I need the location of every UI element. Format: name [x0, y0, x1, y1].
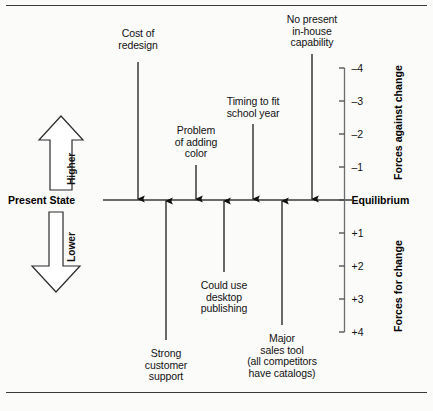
axis-tick-label-3: –1 [352, 162, 364, 173]
axis-tick-label-7: +3 [352, 294, 364, 305]
axis-tick-label-5: +1 [352, 228, 364, 239]
forces_for-label-1: Could use desktop publishing [166, 280, 282, 315]
forces_against-label-0: Cost of redesign [80, 28, 196, 51]
axis-tick-label-1: –3 [352, 96, 364, 107]
axis-tick-label-0: –4 [352, 63, 364, 74]
axis-tick-label-2: –2 [352, 129, 364, 140]
forces-for-arrows [166, 201, 282, 340]
axis-tick-label-6: +2 [352, 261, 364, 272]
present-state-label: Present State [8, 195, 75, 206]
forces-against-change-caption: Forces against change [392, 65, 404, 180]
equilibrium-label: Equilibrium [352, 195, 410, 206]
lower-label: Lower [66, 232, 77, 262]
forces-for-change-caption: Forces for change [392, 240, 404, 332]
higher-label: Higher [66, 153, 77, 185]
axis-tick-marks [339, 68, 345, 332]
forces_against-label-1: Problem of adding color [138, 125, 254, 160]
axis-tick-label-8: +4 [352, 327, 364, 338]
force-field-diagram: Present State Higher Lower Forces agains… [0, 0, 433, 411]
forces_against-label-2: Timing to fit school year [195, 96, 311, 119]
forces_against-label-3: No present in-house capability [254, 14, 370, 49]
forces_for-label-0: Strong customer support [108, 348, 224, 383]
forces_for-label-2: Major sales tool (all competitors have c… [224, 333, 340, 379]
